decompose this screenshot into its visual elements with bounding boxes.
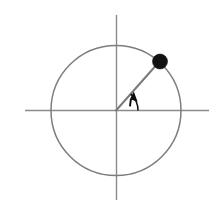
unit-circle-figure — [0, 0, 216, 207]
figure-background — [0, 0, 216, 207]
unit-circle-diagram — [0, 0, 216, 207]
terminal-point-dot — [153, 54, 168, 69]
